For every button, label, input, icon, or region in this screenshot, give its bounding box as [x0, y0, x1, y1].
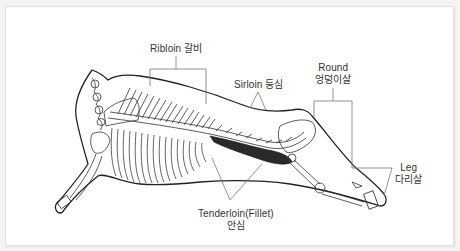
- label-round: Round 엉덩이살: [315, 62, 351, 86]
- label-sirloin: Sirloin 등심: [234, 79, 284, 91]
- label-tenderloin-en: Tenderloin(Fillet): [198, 208, 274, 220]
- label-round-ko: 엉덩이살: [315, 74, 351, 86]
- label-ribloin: Ribloin 갈비: [150, 43, 202, 55]
- label-tenderloin: Tenderloin(Fillet) 안심: [198, 208, 274, 232]
- label-leg: Leg 다리살: [395, 162, 422, 186]
- sirloin-pointer: [250, 92, 266, 110]
- label-leg-ko: 다리살: [395, 174, 422, 186]
- label-ribloin-ko: 갈비: [184, 43, 202, 54]
- label-sirloin-ko: 등심: [265, 79, 283, 90]
- label-ribloin-en: Ribloin: [150, 43, 181, 54]
- label-round-en: Round: [315, 62, 351, 74]
- leg-pointer: [384, 168, 392, 196]
- label-leg-en: Leg: [395, 162, 422, 174]
- label-sirloin-en: Sirloin: [234, 79, 263, 90]
- label-tenderloin-ko: 안심: [198, 220, 274, 232]
